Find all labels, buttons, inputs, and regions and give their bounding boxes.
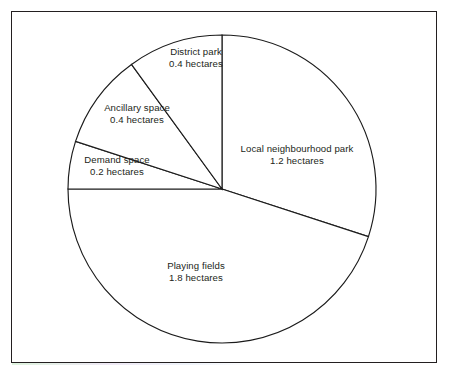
pie-chart-graphic xyxy=(0,0,449,376)
pie-chart-figure: Local neighbourhood park 1.2 hectares Pl… xyxy=(0,0,449,376)
